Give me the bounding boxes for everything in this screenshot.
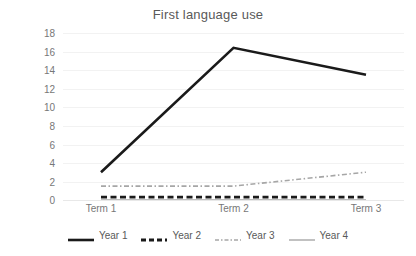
line-chart: First language use 18 16 14 12 10 8 6 4 … xyxy=(0,0,416,256)
y-axis-tick: 16 xyxy=(44,46,55,57)
y-axis-tick: 12 xyxy=(44,83,55,94)
x-axis: Term 1 Term 2 Term 3 xyxy=(0,203,416,221)
chart-legend: Year 1 Year 2 Year 3 xyxy=(0,230,416,241)
plot-area xyxy=(63,33,404,200)
y-axis-tick: 2 xyxy=(49,176,55,187)
y-axis-tick: 18 xyxy=(44,28,55,39)
legend-swatch-icon xyxy=(289,231,315,241)
legend-item-year-3[interactable]: Year 3 xyxy=(215,230,275,241)
x-axis-tick: Term 3 xyxy=(351,203,382,214)
legend-swatch-icon xyxy=(68,231,94,241)
y-axis-tick: 14 xyxy=(44,65,55,76)
y-axis-tick: 4 xyxy=(49,158,55,169)
series-line-year-3 xyxy=(101,172,366,186)
legend-label: Year 4 xyxy=(320,230,349,241)
legend-item-year-1[interactable]: Year 1 xyxy=(68,230,128,241)
y-axis-tick: 6 xyxy=(49,139,55,150)
legend-swatch-icon xyxy=(141,231,167,241)
legend-item-year-2[interactable]: Year 2 xyxy=(141,230,201,241)
legend-label: Year 1 xyxy=(99,230,128,241)
legend-label: Year 3 xyxy=(246,230,275,241)
legend-label: Year 2 xyxy=(172,230,201,241)
x-axis-line xyxy=(63,200,404,201)
y-axis-tick: 8 xyxy=(49,120,55,131)
x-axis-tick: Term 2 xyxy=(218,203,249,214)
legend-swatch-icon xyxy=(215,231,241,241)
series-layer xyxy=(63,33,404,200)
x-axis-tick: Term 1 xyxy=(86,203,117,214)
legend-item-year-4[interactable]: Year 4 xyxy=(289,230,349,241)
y-axis-tick: 10 xyxy=(44,102,55,113)
series-line-year-1 xyxy=(101,48,366,172)
